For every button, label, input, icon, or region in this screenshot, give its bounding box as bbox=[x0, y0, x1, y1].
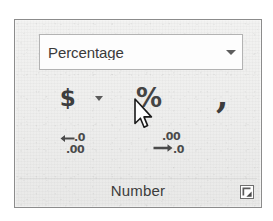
comma-style-button[interactable]: , bbox=[201, 79, 243, 117]
number-format-combobox[interactable]: Percentage bbox=[39, 34, 243, 70]
increase-decimal-top-text: .0 bbox=[74, 132, 85, 143]
decrease-decimal-top-text: .00 bbox=[162, 131, 180, 142]
arrow-left-icon bbox=[60, 134, 75, 143]
group-label-divider bbox=[19, 178, 257, 179]
dialog-launcher-glyph bbox=[239, 184, 255, 200]
ribbon-number-group: Percentage $ % , .0 bbox=[14, 19, 262, 208]
decrease-decimal-button[interactable]: .00 .0 bbox=[145, 125, 201, 163]
decrease-decimal-bottom-text: .0 bbox=[173, 144, 184, 155]
arrow-right-icon bbox=[153, 143, 173, 153]
increase-decimal-icon: .0 .00 bbox=[58, 129, 100, 159]
dialog-launcher-icon[interactable] bbox=[239, 184, 255, 200]
accounting-format-menu-arrow[interactable] bbox=[89, 79, 109, 117]
increase-decimal-button[interactable]: .0 .00 bbox=[51, 125, 107, 163]
increase-decimal-bottom-text: .00 bbox=[66, 144, 84, 155]
screenshot-root: Percentage $ % , .0 bbox=[0, 0, 273, 221]
accounting-number-format-button[interactable]: $ bbox=[47, 79, 89, 117]
percent-style-button[interactable]: % bbox=[125, 79, 174, 117]
percent-icon: % bbox=[136, 85, 162, 111]
group-label-number: Number bbox=[15, 182, 261, 199]
dollar-icon: $ bbox=[60, 87, 76, 110]
chevron-down-icon[interactable] bbox=[222, 35, 242, 69]
number-format-button-row-bottom: .0 .00 .00 .0 bbox=[39, 124, 243, 164]
number-format-value: Percentage bbox=[40, 45, 222, 60]
number-format-button-row-top: $ % , bbox=[39, 78, 243, 118]
decrease-decimal-icon: .00 .0 bbox=[152, 129, 194, 159]
comma-icon: , bbox=[216, 87, 229, 103]
